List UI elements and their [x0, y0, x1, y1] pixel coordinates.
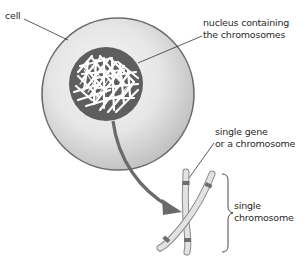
gene-label: single gene or a chromosome [215, 126, 295, 150]
cell-leader-line [24, 19, 68, 40]
nucleus-label-line2: the chromosomes [203, 29, 289, 41]
gene-band [184, 238, 191, 242]
gene-label-line1: single gene [215, 126, 295, 138]
brace-icon [222, 174, 233, 252]
cell-label-text: cell [5, 10, 21, 21]
chromosome-label: single chromosome [234, 200, 294, 224]
nucleus-label: nucleus containing the chromosomes [203, 17, 289, 41]
gene-band [183, 181, 190, 185]
chromosome-label-line2: chromosome [234, 212, 294, 224]
nucleus-label-line1: nucleus containing [203, 17, 289, 29]
gene-label-line2: or a chromosome [215, 138, 295, 150]
nucleus [69, 47, 143, 121]
cell-label: cell [5, 10, 21, 22]
chromosome-label-line1: single [234, 200, 294, 212]
